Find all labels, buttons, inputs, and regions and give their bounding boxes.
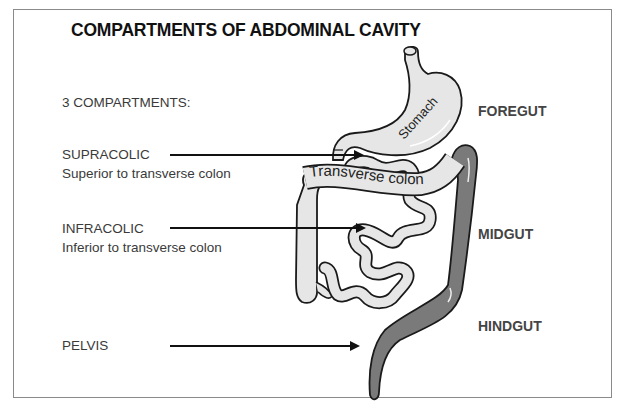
gut-illustration: Transverse colon Stomach <box>0 0 621 411</box>
stomach-shape <box>333 47 462 160</box>
